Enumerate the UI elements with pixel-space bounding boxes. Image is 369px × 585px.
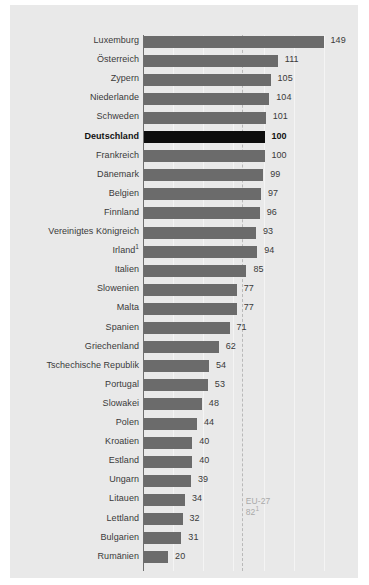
plot-panel: EU-27 821 Luxemburg149Österreich111Zyper…: [10, 5, 358, 578]
bar: [144, 360, 209, 372]
bar: [144, 341, 219, 353]
bar-rows-container: Luxemburg149Österreich111Zypern105Nieder…: [10, 5, 358, 578]
category-label: Slowakei: [103, 398, 139, 408]
bar: [144, 303, 237, 315]
bar: [144, 36, 324, 48]
category-label: Kroatien: [105, 436, 139, 446]
bar: [144, 131, 265, 143]
category-label: Ungarn: [109, 474, 139, 484]
category-label: Lettland: [107, 513, 139, 523]
bar: [144, 437, 192, 449]
bar-value-label: 34: [192, 493, 202, 503]
bar: [144, 93, 269, 105]
bar-chart-figure: EU-27 821 Luxemburg149Österreich111Zyper…: [0, 0, 369, 585]
category-label: Belgien: [109, 188, 139, 198]
bar: [144, 112, 266, 124]
bar: [144, 475, 191, 487]
bar-value-label: 96: [267, 207, 277, 217]
category-label: Bulgarien: [101, 532, 139, 542]
bar-value-label: 32: [190, 513, 200, 523]
bar-value-label: 104: [276, 92, 291, 102]
bar: [144, 227, 256, 239]
category-label: Polen: [116, 417, 139, 427]
bar-row: Rumänien20: [10, 547, 358, 569]
bar: [144, 532, 181, 544]
bar-value-label: 101: [273, 111, 288, 121]
bar-value-label: 40: [199, 455, 209, 465]
category-label: Irland1: [113, 245, 140, 255]
bar-value-label: 71: [237, 322, 247, 332]
category-label: Frankreich: [96, 150, 139, 160]
bar: [144, 513, 183, 525]
category-label: Schweden: [97, 111, 139, 121]
bar-value-label: 105: [278, 73, 293, 83]
bar-value-label: 97: [268, 188, 278, 198]
bar-value-label: 111: [285, 54, 299, 64]
bar-value-label: 62: [226, 341, 236, 351]
bar: [144, 265, 246, 277]
bar-value-label: 48: [209, 398, 219, 408]
bar-value-label: 44: [204, 417, 214, 427]
category-label: Niederlande: [90, 92, 139, 102]
category-label: Luxemburg: [94, 35, 139, 45]
bar-value-label: 100: [272, 131, 287, 141]
category-label: Rumänien: [98, 551, 139, 561]
bar-value-label: 93: [263, 226, 273, 236]
category-label: Italien: [115, 264, 139, 274]
category-label: Dänemark: [97, 169, 139, 179]
category-label: Vereinigtes Königreich: [48, 226, 139, 236]
category-label: Tschechische Republik: [46, 360, 139, 370]
bar: [144, 207, 260, 219]
category-label: Österreich: [97, 54, 139, 64]
bar: [144, 188, 261, 200]
bar-value-label: 100: [272, 150, 287, 160]
category-label: Zypern: [111, 73, 139, 83]
bar: [144, 150, 265, 162]
bar: [144, 551, 168, 563]
bar: [144, 398, 202, 410]
bar-value-label: 149: [331, 35, 346, 45]
category-label: Portugal: [105, 379, 139, 389]
category-label: Litauen: [109, 493, 139, 503]
bar: [144, 74, 271, 86]
bar: [144, 322, 230, 334]
bar-value-label: 94: [264, 245, 274, 255]
bar-value-label: 20: [175, 551, 185, 561]
bar: [144, 169, 263, 181]
category-footnote-marker: 1: [135, 243, 139, 250]
bar-value-label: 77: [244, 302, 254, 312]
bar-value-label: 39: [198, 474, 208, 484]
category-label: Spanien: [106, 322, 139, 332]
bar: [144, 55, 278, 67]
category-label: Finnland: [104, 207, 139, 217]
bar-value-label: 40: [199, 436, 209, 446]
category-label: Deutschland: [84, 131, 139, 141]
bar: [144, 284, 237, 296]
category-label: Estland: [109, 455, 139, 465]
bar-value-label: 99: [270, 169, 280, 179]
bar-value-label: 85: [253, 264, 263, 274]
category-label: Malta: [117, 302, 139, 312]
bar-value-label: 31: [188, 532, 198, 542]
bar-value-label: 53: [215, 379, 225, 389]
category-label: Slowenien: [97, 283, 139, 293]
bar: [144, 456, 192, 468]
bar: [144, 246, 257, 258]
bar: [144, 494, 185, 506]
bar-value-label: 54: [216, 360, 226, 370]
category-label: Griechenland: [85, 341, 139, 351]
bar-value-label: 77: [244, 283, 254, 293]
bar: [144, 379, 208, 391]
bar: [144, 418, 197, 430]
